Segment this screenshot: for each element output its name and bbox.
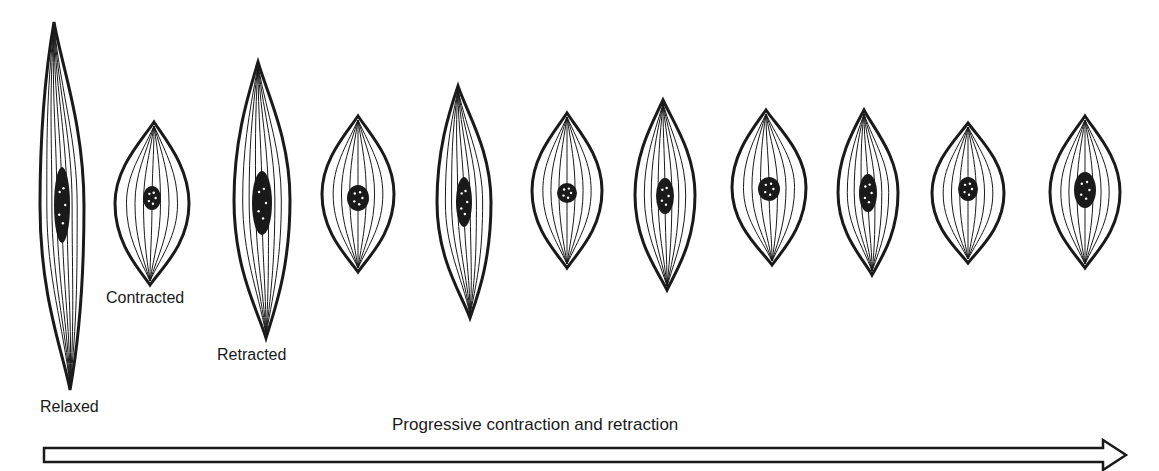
nucleus	[859, 174, 877, 212]
muscle-cell-9	[838, 110, 898, 275]
label-contracted: Contracted	[106, 289, 184, 307]
muscle-cell-6	[532, 113, 602, 268]
muscle-cell-4	[322, 116, 394, 272]
nucleus	[54, 167, 70, 243]
muscle-cell-1	[40, 22, 84, 390]
nucleus	[958, 177, 978, 201]
muscle-cell-8	[732, 110, 806, 265]
progress-arrow	[44, 440, 1126, 470]
nucleus	[143, 186, 161, 210]
cell-sequence	[40, 22, 1120, 390]
nucleus	[456, 177, 472, 227]
muscle-cell-2	[115, 122, 189, 285]
label-retracted: Retracted	[217, 346, 286, 364]
nucleus	[557, 183, 577, 203]
nucleus	[1074, 172, 1096, 208]
arrow-label: Progressive contraction and retraction	[392, 415, 678, 435]
muscle-cell-7	[635, 100, 695, 290]
muscle-cell-11	[1050, 116, 1120, 268]
muscle-cell-diagram	[0, 0, 1159, 471]
muscle-cell-10	[932, 123, 1004, 263]
label-relaxed: Relaxed	[40, 398, 99, 416]
muscle-cell-5	[437, 86, 491, 318]
nucleus	[347, 185, 369, 211]
nucleus	[252, 171, 272, 235]
nucleus	[758, 177, 780, 201]
nucleus	[656, 178, 674, 214]
muscle-cell-3	[234, 62, 290, 338]
